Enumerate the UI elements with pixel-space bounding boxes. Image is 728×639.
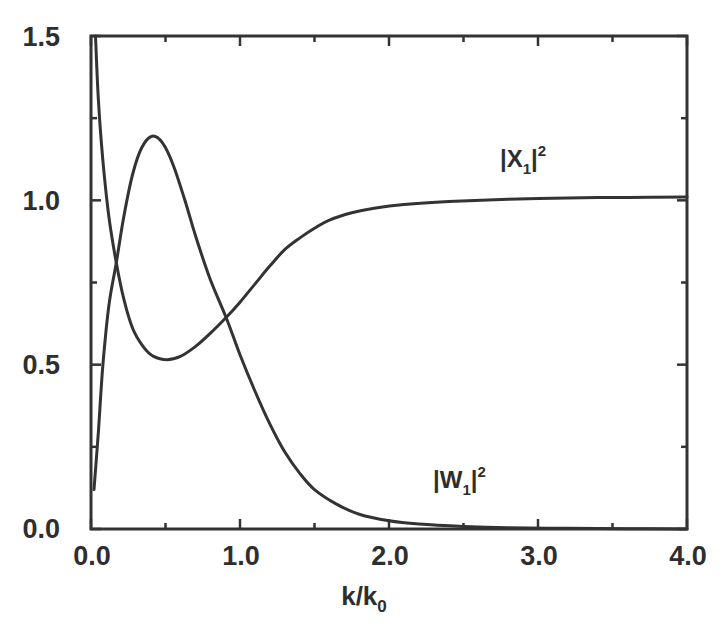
label-superscript: 2 <box>538 142 546 159</box>
curve-label-w1-squared: |W1|2 <box>433 463 486 498</box>
plot-frame <box>91 36 687 529</box>
y-tick-label: 0.0 <box>22 514 60 544</box>
x-tick-label: 1.0 <box>222 541 260 571</box>
curve-w1-squared <box>94 136 687 529</box>
label-main: |W <box>433 466 463 493</box>
label-close: | <box>471 466 478 493</box>
label-close: | <box>531 145 538 172</box>
x-axis-title-main: k/k <box>341 581 378 611</box>
y-tick-label: 0.5 <box>22 350 60 380</box>
x-tick-label: 2.0 <box>371 541 409 571</box>
y-tick-labels: 1.5 1.0 0.5 0.0 <box>22 22 60 544</box>
y-tick-marks <box>91 36 687 529</box>
label-subscript: 1 <box>523 160 531 177</box>
label-subscript: 1 <box>462 481 470 498</box>
y-tick-label: 1.0 <box>22 186 60 216</box>
x-axis-title-subscript: 0 <box>377 597 386 616</box>
x-tick-label: 4.0 <box>669 541 707 571</box>
x-axis-title: k/k0 <box>341 581 387 616</box>
x-tick-label: 0.0 <box>73 541 111 571</box>
label-superscript: 2 <box>477 463 485 480</box>
chart: 1.5 1.0 0.5 0.0 0.0 1.0 2.0 3.0 4.0 k/k0… <box>0 0 728 639</box>
curves <box>94 36 687 529</box>
x-tick-marks <box>91 36 687 529</box>
x-tick-labels: 0.0 1.0 2.0 3.0 4.0 <box>73 541 707 571</box>
label-main: |X <box>500 145 523 172</box>
x-tick-label: 3.0 <box>520 541 558 571</box>
y-tick-label: 1.5 <box>22 22 60 52</box>
curve-label-x1-squared: |X1|2 <box>500 142 546 177</box>
